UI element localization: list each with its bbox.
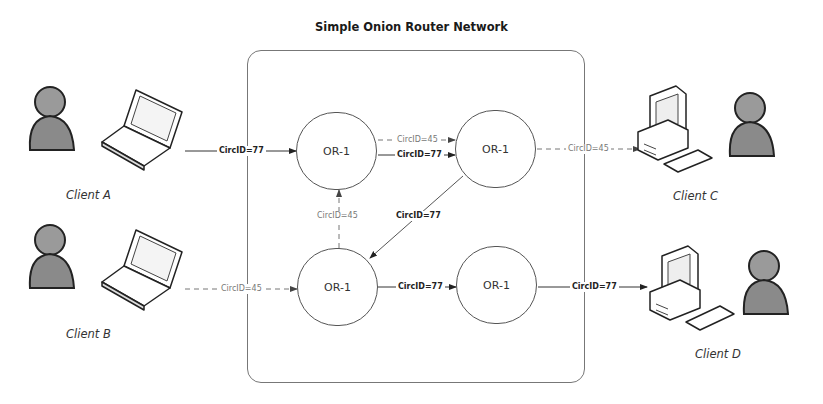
edge-label: CircID=77 xyxy=(396,282,445,292)
edge-label: CircID=77 xyxy=(394,211,443,221)
desktop-icon-client-d xyxy=(650,246,734,330)
node-label: OR-1 xyxy=(482,143,509,156)
person-icon-client-d xyxy=(744,251,788,314)
node-label: OR-1 xyxy=(483,279,510,292)
person-icon-client-b xyxy=(30,225,74,288)
edge-label: CircID=45 xyxy=(566,144,611,154)
node-label: OR-1 xyxy=(323,145,350,158)
client-label-a: Client A xyxy=(66,188,111,202)
onion-router-node-top-left: OR-1 xyxy=(296,112,377,190)
edge-label: CircID=77 xyxy=(217,146,266,156)
client-label-b: Client B xyxy=(66,327,111,341)
client-label-d: Client D xyxy=(695,347,741,361)
onion-router-node-bottom-left: OR-1 xyxy=(297,248,378,326)
person-icon-client-a xyxy=(30,87,74,150)
onion-router-node-bottom-right: OR-1 xyxy=(456,246,537,324)
edge-label: CircID=77 xyxy=(570,282,619,292)
clipped-caption xyxy=(300,398,540,404)
person-icon-client-c xyxy=(730,93,774,156)
edge-label: CircID=45 xyxy=(395,135,440,145)
node-label: OR-1 xyxy=(324,281,351,294)
client-label-c: Client C xyxy=(673,189,718,203)
edge-label: CircID=77 xyxy=(395,150,444,160)
edge-label: CircID=45 xyxy=(219,284,264,294)
edge-label: CircID=45 xyxy=(315,211,360,221)
onion-router-node-top-right: OR-1 xyxy=(455,110,536,188)
laptop-icon-client-b xyxy=(102,230,182,310)
desktop-icon-client-c xyxy=(638,86,712,172)
laptop-icon-client-a xyxy=(102,90,182,170)
